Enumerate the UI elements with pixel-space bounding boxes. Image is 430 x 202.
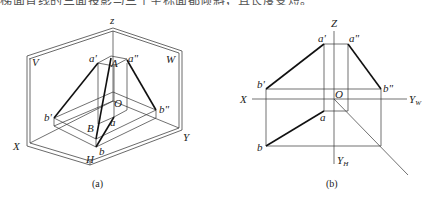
label-b-double-prime: b"	[159, 103, 170, 115]
label-O: O	[114, 97, 122, 109]
projection-diagrams: z V W a' a" A O b' b" a B b X Y H (a)	[0, 0, 430, 202]
figure-a-pictorial: z V W a' a" A O b' b" a B b X Y H (a)	[12, 14, 191, 190]
label-b-prime: b'	[44, 111, 53, 123]
label-A: A	[110, 57, 118, 69]
front-view-a-prime-b-prime	[266, 44, 324, 89]
top-view-ab	[266, 111, 324, 146]
label-X: X	[12, 140, 21, 152]
caption-a: (a)	[92, 178, 103, 190]
label-H: H	[85, 153, 95, 165]
figure-b-orthographic: Z a' a" b' b" X O YW a b YH (b)	[239, 17, 422, 190]
label-b-b: b	[257, 141, 263, 153]
caption-b: (b)	[326, 178, 338, 190]
label-X-b: X	[239, 93, 248, 105]
side-view-a-dprime-b-dprime	[348, 44, 381, 89]
construction-lines-b	[266, 44, 381, 146]
line-a-prime-b-prime	[54, 63, 98, 118]
label-a-b: a	[320, 111, 326, 123]
label-B: B	[87, 122, 94, 134]
label-Y-H: YH	[337, 154, 349, 168]
label-a-double-prime-b: a"	[349, 32, 360, 44]
label-b-double-prime-b: b"	[383, 82, 394, 94]
label-O-b: O	[335, 88, 343, 100]
label-b-prime-b: b'	[257, 78, 266, 90]
label-Z: Z	[331, 17, 338, 29]
label-V: V	[32, 56, 40, 68]
label-a-double-prime: a"	[128, 52, 139, 64]
label-Y-W: YW	[409, 93, 422, 107]
label-a-prime: a'	[89, 52, 98, 64]
label-z: z	[109, 14, 115, 26]
line-a-dprime-b-dprime	[127, 60, 156, 110]
label-a: a	[110, 116, 116, 128]
label-Y: Y	[183, 131, 191, 143]
label-a-prime-b: a'	[318, 32, 327, 44]
line-projections-b	[266, 44, 381, 146]
label-b: b	[99, 145, 105, 157]
label-W: W	[166, 53, 176, 65]
